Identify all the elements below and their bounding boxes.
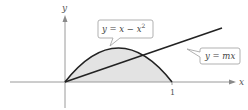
parabola-label: y = x − x2 [101, 22, 145, 34]
y-axis-arrow-icon [63, 15, 68, 22]
area-between-curves-diagram: 1 x y y = x − x2 y = mx [0, 0, 248, 110]
x-tick-label: 1 [170, 88, 175, 97]
y-axis-label: y [61, 3, 68, 13]
x-axis-label: x [239, 77, 244, 87]
callout-parabola: y = x − x2 [98, 20, 153, 46]
line-label: y = mx [204, 51, 235, 61]
x-axis-arrow-icon [229, 80, 236, 85]
callout-line: y = mx [187, 48, 240, 64]
